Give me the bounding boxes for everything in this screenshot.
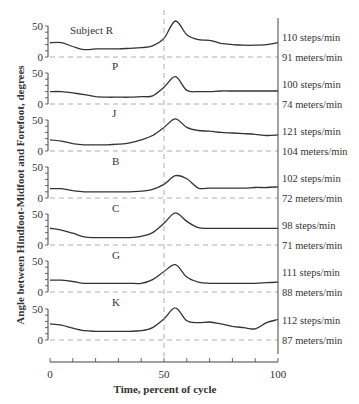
- walking-speed: 91 meters/min: [282, 52, 343, 63]
- y-tick-0: 0: [38, 286, 44, 298]
- y-tick-0: 0: [38, 145, 44, 157]
- steps-rate: 100 steps/min: [282, 79, 341, 90]
- x-axis-label: Time, percent of cycle: [114, 383, 217, 395]
- y-tick-50: 50: [32, 20, 44, 32]
- walking-speed: 74 meters/min: [282, 99, 343, 110]
- y-tick-0: 0: [38, 51, 44, 63]
- panel-b: 500B102 steps/min72 meters/min: [32, 155, 343, 204]
- walking-speed: 88 meters/min: [282, 287, 343, 298]
- panel-subject-r: 500Subject R110 steps/min91 meters/min: [32, 20, 343, 63]
- y-tick-50: 50: [32, 208, 44, 220]
- steps-rate: 111 steps/min: [282, 267, 341, 278]
- walking-speed: 87 meters/min: [282, 335, 343, 346]
- y-tick-50: 50: [32, 161, 44, 173]
- subject-label: K: [112, 296, 120, 308]
- panel-g: 500G111 steps/min88 meters/min: [32, 249, 343, 298]
- y-axis-label: Angle between Hindfoot-Midfoot and Foref…: [14, 65, 26, 325]
- subject-label: G: [112, 249, 120, 261]
- subject-label: J: [112, 107, 117, 119]
- y-tick-0: 0: [38, 334, 44, 346]
- steps-rate: 102 steps/min: [282, 173, 341, 184]
- steps-rate: 98 steps/min: [282, 220, 336, 231]
- y-tick-0: 0: [38, 192, 44, 204]
- walking-speed: 71 meters/min: [282, 240, 343, 251]
- y-tick-50: 50: [32, 114, 44, 126]
- x-tick-100: 100: [270, 368, 287, 380]
- subject-label: B: [112, 155, 119, 167]
- x-tick-50: 50: [159, 368, 171, 380]
- panel-p: 500P100 steps/min74 meters/min: [32, 60, 343, 110]
- series-line: [50, 213, 278, 238]
- x-tick-0: 0: [47, 368, 53, 380]
- y-tick-50: 50: [32, 67, 44, 79]
- subject-label: Subject R: [70, 24, 114, 36]
- panel-k: 500K112 steps/min87 meters/min: [32, 296, 343, 346]
- steps-rate: 112 steps/min: [282, 315, 341, 326]
- subject-label: C: [112, 202, 119, 214]
- steps-rate: 110 steps/min: [282, 32, 341, 43]
- walking-speed: 104 meters/min: [282, 146, 348, 157]
- y-tick-50: 50: [32, 303, 44, 315]
- y-tick-50: 50: [32, 255, 44, 267]
- x-axis: 0 50 100 Time, percent of cycle: [47, 358, 287, 395]
- panel-j: 500J121 steps/min104 meters/min: [32, 107, 348, 157]
- y-tick-0: 0: [38, 98, 44, 110]
- y-tick-0: 0: [38, 239, 44, 251]
- subject-label: P: [112, 60, 118, 72]
- walking-speed: 72 meters/min: [282, 193, 343, 204]
- gait-angle-chart: 500Subject R110 steps/min91 meters/min50…: [0, 0, 359, 404]
- steps-rate: 121 steps/min: [282, 126, 341, 137]
- panel-c: 500C98 steps/min71 meters/min: [32, 202, 343, 251]
